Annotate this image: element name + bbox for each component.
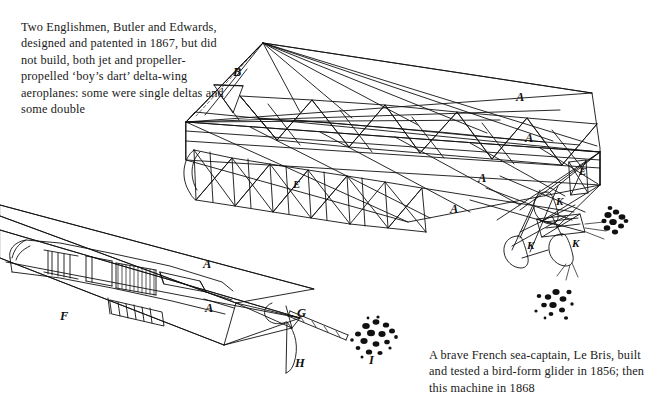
label-E2: E	[578, 165, 586, 177]
label-F: F	[59, 309, 69, 323]
label-A6: A	[204, 301, 213, 315]
label-A5: A	[202, 257, 211, 271]
lower-aeroplane-drawing	[0, 205, 398, 373]
technical-line-drawing: B A A A A E E K K K A A F G H I	[0, 0, 667, 414]
label-B: B	[232, 65, 241, 79]
label-G: G	[297, 306, 306, 320]
label-I: I	[368, 353, 375, 367]
label-A3: A	[477, 171, 486, 185]
label-E1: E	[292, 178, 300, 190]
label-A1: A	[515, 90, 524, 104]
label-K3: K	[571, 237, 580, 249]
upper-aeroplane-drawing	[184, 43, 628, 320]
label-A4: A	[449, 202, 458, 216]
label-K1: K	[555, 195, 564, 207]
illustration-page: Two Englishmen, Butler and Edwards, desi…	[0, 0, 667, 414]
label-A2: A	[524, 131, 533, 145]
label-H: H	[294, 356, 306, 370]
label-K2: K	[526, 239, 535, 251]
